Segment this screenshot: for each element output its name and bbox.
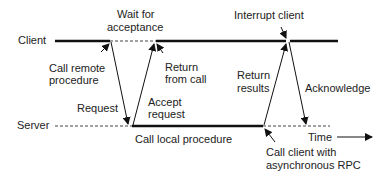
interrupt-client-label: Interrupt client xyxy=(234,9,304,21)
return-from-call-line1: Return xyxy=(165,61,198,73)
return-from-call-line2: from call xyxy=(165,73,207,85)
acknowledge-label: Acknowledge xyxy=(305,82,370,94)
accept-request-line1: Accept xyxy=(148,96,182,108)
client-lane-label: Client xyxy=(18,34,46,46)
return-results-line2: results xyxy=(237,82,269,94)
server-lane-label: Server xyxy=(17,119,49,131)
call-client-async-line1: Call client with xyxy=(266,146,336,158)
return-from-call-pointer xyxy=(157,44,163,53)
call-client-async-line2: asynchronous RPC xyxy=(266,159,361,171)
call-client-async-pointer xyxy=(265,129,275,142)
wait-for-acceptance-line2: acceptance xyxy=(107,21,163,33)
interrupt-client-pointer xyxy=(281,27,286,38)
call-remote-procedure-line1: Call remote xyxy=(49,62,105,74)
call-remote-pointer xyxy=(101,44,109,52)
call-local-procedure-label: Call local procedure xyxy=(135,133,232,145)
call-remote-procedure-line2: procedure xyxy=(49,74,99,86)
time-label: Time xyxy=(308,131,332,143)
acknowledge-arrow xyxy=(289,42,306,124)
return-results-line1: Return xyxy=(237,69,270,81)
request-label: Request xyxy=(77,102,118,114)
wait-for-acceptance-line1: Wait for xyxy=(117,8,155,20)
accept-request-line2: request xyxy=(148,108,185,120)
